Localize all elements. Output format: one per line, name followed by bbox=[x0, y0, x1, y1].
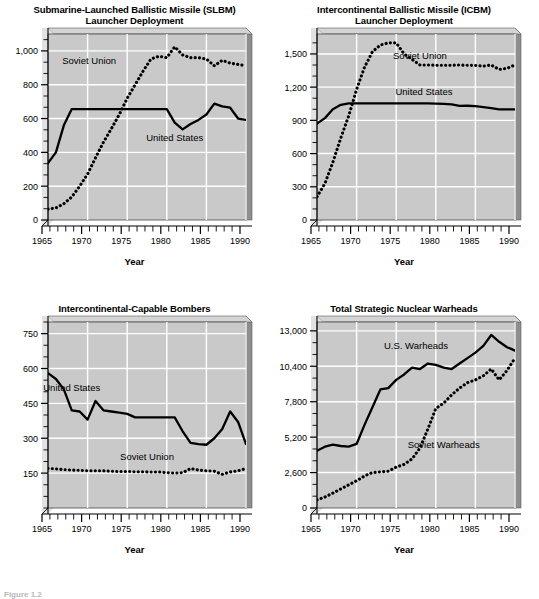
series-annotation: Soviet Warheads bbox=[408, 439, 480, 450]
panel-warheads-chart: 02,6005,2007,80010,40013,000196519701975… bbox=[269, 314, 539, 544]
x-axis: 196519701975198019851990 bbox=[301, 220, 521, 246]
panel-slbm-xlabel: Year bbox=[0, 256, 269, 267]
series-annotation: U.S. Warheads bbox=[384, 340, 448, 351]
y-tick-label: 150 bbox=[23, 469, 38, 479]
icbm-svg: 03006009001,2001,50019651970197519801985… bbox=[269, 26, 527, 256]
panel-bombers-chart: 150300450600750196519701975198019851990U… bbox=[0, 314, 269, 544]
bombers-svg: 150300450600750196519701975198019851990U… bbox=[0, 314, 258, 544]
x-tick-label: 1980 bbox=[151, 524, 171, 534]
x-axis: 196519701975198019851990 bbox=[301, 508, 521, 534]
panel-bombers-title: Intercontinental-Capable Bombers bbox=[0, 299, 269, 314]
panel-warheads-xlabel: Year bbox=[269, 544, 539, 555]
y-tick-label: 2,600 bbox=[284, 468, 307, 478]
y-tick-label: 600 bbox=[23, 364, 38, 374]
x-tick-label: 1975 bbox=[111, 236, 131, 246]
x-tick-label: 1980 bbox=[420, 236, 440, 246]
x-axis: 196519701975198019851990 bbox=[32, 508, 252, 534]
y-tick-label: 300 bbox=[292, 182, 307, 192]
x-tick-label: 1970 bbox=[72, 524, 92, 534]
x-tick-label: 1975 bbox=[111, 524, 131, 534]
panel-icbm-xlabel: Year bbox=[269, 256, 539, 267]
panel-warheads: Total Strategic Nuclear Warheads 02,6005… bbox=[269, 299, 539, 599]
x-tick-label: 1985 bbox=[190, 236, 210, 246]
panel-bombers-xlabel: Year bbox=[0, 544, 269, 555]
series-annotation: Soviet Union bbox=[120, 451, 174, 462]
x-tick-label: 1965 bbox=[32, 236, 52, 246]
series-annotation: United States bbox=[146, 132, 203, 143]
x-tick-label: 1985 bbox=[459, 524, 479, 534]
y-tick-label: 7,800 bbox=[284, 397, 307, 407]
series-annotation: United States bbox=[395, 86, 452, 97]
y-tick-label: 5,200 bbox=[284, 433, 307, 443]
figure-caption: Figure 1.2 bbox=[4, 590, 42, 599]
plot-area bbox=[48, 322, 246, 508]
y-tick-label: 200 bbox=[23, 182, 38, 192]
series-annotation: Soviet Union bbox=[393, 50, 447, 61]
x-tick-label: 1975 bbox=[380, 236, 400, 246]
x-tick-label: 1965 bbox=[301, 236, 321, 246]
y-tick-label: 1,200 bbox=[284, 83, 307, 93]
x-tick-label: 1990 bbox=[230, 524, 250, 534]
y-tick-label: 450 bbox=[23, 399, 38, 409]
panel-icbm-chart: 03006009001,2001,50019651970197519801985… bbox=[269, 26, 539, 256]
y-tick-label: 1,000 bbox=[15, 46, 38, 56]
x-tick-label: 1965 bbox=[32, 524, 52, 534]
x-tick-label: 1980 bbox=[420, 524, 440, 534]
x-tick-label: 1990 bbox=[499, 236, 519, 246]
x-tick-label: 1975 bbox=[380, 524, 400, 534]
y-tick-label: 13,000 bbox=[279, 326, 307, 336]
y-tick-label: 300 bbox=[23, 434, 38, 444]
figure-panel-grid: Submarine-Launched Ballistic Missile (SL… bbox=[0, 0, 539, 599]
panel-slbm: Submarine-Launched Ballistic Missile (SL… bbox=[0, 0, 269, 299]
y-tick-label: 0 bbox=[302, 503, 307, 513]
x-tick-label: 1970 bbox=[72, 236, 92, 246]
x-tick-label: 1985 bbox=[190, 524, 210, 534]
x-tick-label: 1980 bbox=[151, 236, 171, 246]
x-tick-label: 1965 bbox=[301, 524, 321, 534]
y-tick-label: 0 bbox=[33, 215, 38, 225]
x-tick-label: 1970 bbox=[341, 236, 361, 246]
y-tick-label: 0 bbox=[302, 215, 307, 225]
y-tick-label: 600 bbox=[23, 114, 38, 124]
panel-warheads-title: Total Strategic Nuclear Warheads bbox=[269, 299, 539, 314]
y-tick-label: 750 bbox=[23, 329, 38, 339]
y-tick-label: 400 bbox=[23, 148, 38, 158]
x-tick-label: 1985 bbox=[459, 236, 479, 246]
panel-icbm-title: Intercontinental Ballistic Missile (ICBM… bbox=[269, 0, 539, 26]
y-tick-label: 900 bbox=[292, 116, 307, 126]
y-tick-label: 1,500 bbox=[284, 49, 307, 59]
x-tick-label: 1970 bbox=[341, 524, 361, 534]
y-tick-label: 800 bbox=[23, 80, 38, 90]
series-annotation: United States bbox=[43, 382, 100, 393]
y-tick-label: 10,400 bbox=[279, 362, 307, 372]
panel-slbm-title: Submarine-Launched Ballistic Missile (SL… bbox=[0, 0, 269, 26]
y-tick-label: 600 bbox=[292, 149, 307, 159]
warheads-svg: 02,6005,2007,80010,40013,000196519701975… bbox=[269, 314, 527, 544]
x-tick-label: 1990 bbox=[230, 236, 250, 246]
panel-icbm: Intercontinental Ballistic Missile (ICBM… bbox=[269, 0, 539, 299]
panel-slbm-chart: 02004006008001,0001965197019751980198519… bbox=[0, 26, 269, 256]
panel-bombers: Intercontinental-Capable Bombers 1503004… bbox=[0, 299, 269, 599]
x-tick-label: 1990 bbox=[499, 524, 519, 534]
x-axis: 196519701975198019851990 bbox=[32, 220, 252, 246]
slbm-svg: 02004006008001,0001965197019751980198519… bbox=[0, 26, 258, 256]
series-annotation: Soviet Union bbox=[62, 55, 116, 66]
